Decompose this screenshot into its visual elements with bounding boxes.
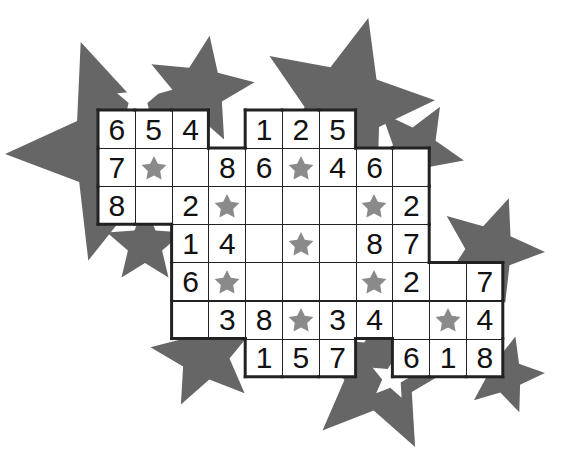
grid-cell[interactable]: 4 xyxy=(172,110,210,149)
star-icon xyxy=(214,269,240,295)
grid-cell[interactable]: 3 xyxy=(208,301,246,340)
cell-value: 6 xyxy=(256,153,273,183)
cell-value: 8 xyxy=(219,153,236,183)
grid-cell[interactable]: 8 xyxy=(98,186,136,225)
cell-value: 2 xyxy=(293,115,310,145)
star-icon xyxy=(288,307,314,333)
grid-cell[interactable]: 2 xyxy=(172,186,210,225)
grid-cell[interactable]: 6 xyxy=(392,339,430,378)
grid-cell[interactable]: 6 xyxy=(245,148,283,187)
cell-value: 1 xyxy=(440,343,457,373)
grid-cell[interactable] xyxy=(245,262,283,301)
grid-cell[interactable]: 7 xyxy=(98,148,136,187)
grid-cell[interactable]: 7 xyxy=(466,262,504,301)
grid-cell[interactable] xyxy=(356,186,394,225)
grid-cell[interactable]: 5 xyxy=(319,110,357,149)
cell-value: 2 xyxy=(403,267,420,297)
cell-value: 4 xyxy=(477,305,494,335)
star-icon xyxy=(361,193,387,219)
grid-cell[interactable]: 7 xyxy=(392,224,430,263)
star-icon xyxy=(435,307,461,333)
cell-value: 5 xyxy=(145,115,162,145)
grid-cell[interactable]: 8 xyxy=(466,339,504,378)
grid-cell[interactable]: 4 xyxy=(208,224,246,263)
grid-cell[interactable] xyxy=(282,224,320,263)
cell-value: 8 xyxy=(366,229,383,259)
grid-cell[interactable] xyxy=(429,301,467,340)
grid-cell[interactable]: 6 xyxy=(172,262,210,301)
cell-value: 6 xyxy=(403,343,420,373)
cell-value: 1 xyxy=(256,115,273,145)
grid-cell[interactable] xyxy=(208,262,246,301)
cell-value: 2 xyxy=(403,191,420,221)
cell-value: 2 xyxy=(182,191,199,221)
grid-cell[interactable] xyxy=(245,186,283,225)
star-icon xyxy=(288,155,314,181)
cell-value: 6 xyxy=(366,153,383,183)
grid-cell[interactable]: 6 xyxy=(356,148,394,187)
star-icon xyxy=(141,155,167,181)
grid-cell[interactable]: 5 xyxy=(135,110,173,149)
cell-value: 7 xyxy=(109,153,126,183)
grid-cell[interactable]: 8 xyxy=(208,148,246,187)
cell-value: 8 xyxy=(109,191,126,221)
grid-cell[interactable]: 1 xyxy=(429,339,467,378)
cell-value: 6 xyxy=(109,115,126,145)
grid-cell[interactable] xyxy=(172,148,210,187)
grid-cell[interactable] xyxy=(135,148,173,187)
grid-cell[interactable]: 6 xyxy=(98,110,136,149)
grid-cell[interactable]: 4 xyxy=(319,148,357,187)
grid-cell[interactable] xyxy=(245,224,283,263)
cell-value: 8 xyxy=(256,305,273,335)
grid-cell[interactable]: 2 xyxy=(282,110,320,149)
grid-cell[interactable] xyxy=(282,262,320,301)
cell-value: 7 xyxy=(477,267,494,297)
cell-value: 1 xyxy=(256,343,273,373)
cell-value: 4 xyxy=(219,229,236,259)
grid-cell[interactable] xyxy=(319,224,357,263)
grid-cell[interactable]: 5 xyxy=(282,339,320,378)
puzzle-grid: 65412578646822148762738344157618 xyxy=(0,0,567,474)
cell-value: 8 xyxy=(477,343,494,373)
grid-cell[interactable]: 4 xyxy=(356,301,394,340)
grid-cell[interactable] xyxy=(392,148,430,187)
grid-cell[interactable]: 1 xyxy=(245,339,283,378)
grid-cell[interactable]: 1 xyxy=(172,224,210,263)
grid-cell[interactable] xyxy=(282,186,320,225)
grid-cell[interactable]: 3 xyxy=(319,301,357,340)
grid-cell[interactable] xyxy=(429,262,467,301)
grid-cell[interactable]: 7 xyxy=(319,339,357,378)
cell-value: 4 xyxy=(329,153,346,183)
cell-value: 7 xyxy=(403,229,420,259)
grid-cell[interactable] xyxy=(356,262,394,301)
star-icon xyxy=(214,193,240,219)
cell-value: 4 xyxy=(366,305,383,335)
grid-cell[interactable]: 1 xyxy=(245,110,283,149)
grid-cell[interactable]: 4 xyxy=(466,301,504,340)
cell-value: 4 xyxy=(182,115,199,145)
grid-cell[interactable]: 8 xyxy=(245,301,283,340)
cell-value: 6 xyxy=(182,267,199,297)
star-icon xyxy=(361,269,387,295)
grid-cell[interactable] xyxy=(282,301,320,340)
grid-cell[interactable]: 2 xyxy=(392,262,430,301)
grid-cell[interactable]: 2 xyxy=(392,186,430,225)
grid-cell[interactable] xyxy=(392,301,430,340)
grid-cell[interactable] xyxy=(319,186,357,225)
cell-value: 3 xyxy=(329,305,346,335)
grid-cell[interactable] xyxy=(282,148,320,187)
star-icon xyxy=(288,231,314,257)
cell-value: 3 xyxy=(219,305,236,335)
cell-value: 5 xyxy=(329,115,346,145)
cell-value: 5 xyxy=(293,343,310,373)
grid-cell[interactable]: 8 xyxy=(356,224,394,263)
grid-cell[interactable] xyxy=(172,301,210,340)
grid-cell[interactable] xyxy=(319,262,357,301)
grid-cell[interactable] xyxy=(135,186,173,225)
cell-value: 1 xyxy=(182,229,199,259)
grid-cell[interactable] xyxy=(208,186,246,225)
cell-value: 7 xyxy=(329,343,346,373)
